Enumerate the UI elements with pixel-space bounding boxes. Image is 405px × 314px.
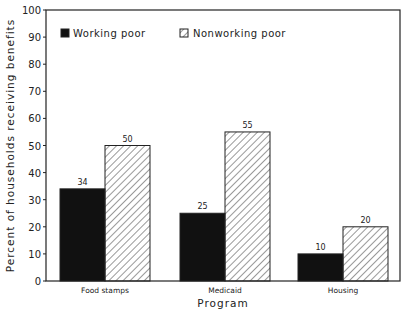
bar-value-label: 50: [122, 135, 132, 144]
legend-label-working-poor: Working poor: [73, 28, 146, 39]
y-tick-label: 30: [28, 195, 41, 206]
y-tick-label: 0: [35, 276, 41, 287]
y-tick-label: 10: [28, 249, 41, 260]
y-tick-label: 80: [28, 59, 41, 70]
x-axis-label: Program: [197, 297, 248, 309]
bar-value-label: 10: [315, 243, 325, 252]
bar-nonworking-poor: [105, 146, 150, 282]
y-tick-label: 60: [28, 113, 41, 124]
bar-working-poor: [298, 254, 343, 281]
bar-value-label: 34: [77, 178, 87, 187]
x-category-label: Medicaid: [208, 286, 242, 295]
y-tick-label: 100: [22, 5, 41, 16]
y-tick-label: 90: [28, 32, 41, 43]
bar-chart: 0102030405060708090100Percent of househo…: [0, 0, 405, 314]
bar-value-label: 25: [197, 202, 207, 211]
y-tick-label: 20: [28, 222, 41, 233]
y-tick-label: 50: [28, 141, 41, 152]
bar-value-label: 20: [360, 216, 370, 225]
legend-swatch-nonworking-poor: [180, 29, 188, 37]
bar-value-label: 55: [242, 121, 252, 130]
bar-nonworking-poor: [225, 132, 270, 281]
legend-label-nonworking-poor: Nonworking poor: [193, 28, 286, 39]
bar-working-poor: [180, 213, 225, 281]
legend-swatch-working-poor: [61, 29, 69, 37]
y-tick-label: 70: [28, 86, 41, 97]
y-tick-label: 40: [28, 168, 41, 179]
bar-nonworking-poor: [343, 227, 388, 281]
bar-working-poor: [60, 189, 105, 281]
x-category-label: Housing: [328, 286, 359, 295]
y-axis-label: Percent of households receiving benefits: [4, 19, 16, 272]
x-category-label: Food stamps: [81, 286, 129, 295]
